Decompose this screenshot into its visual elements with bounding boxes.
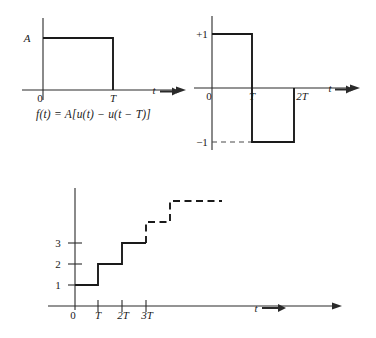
staircase-chart: 1 2 3 0 T 2T 3T t	[40, 180, 376, 320]
square-wave-chart: +1 −1 0 T 2T t	[190, 0, 376, 152]
figure-square-wave: +1 −1 0 T 2T t f(t) = u(t) − 2u(t − T) +…	[190, 0, 376, 180]
x-axis-label-t: t	[254, 302, 258, 314]
x-label-T: T	[249, 90, 256, 102]
x-label-2T: 2T	[117, 309, 130, 321]
y-label-2: 2	[55, 258, 61, 270]
staircase-dashed-curve	[146, 201, 222, 243]
caption-rectangular-pulse: f(t) = A[u(t) − u(t − T)]	[36, 108, 151, 120]
pulse-curve	[43, 38, 113, 90]
staircase-solid-curve	[75, 243, 146, 285]
origin-label: 0	[206, 90, 212, 102]
x-label-3T: 3T	[140, 309, 154, 321]
x-label-T: T	[110, 92, 117, 104]
y-label-3: 3	[55, 237, 61, 249]
figure-rectangular-pulse: A 0 T t f(t) = A[u(t) − u(t − T)]	[0, 0, 200, 140]
y-label-1: 1	[55, 279, 61, 291]
t-label-arrow-icon	[262, 304, 286, 312]
y-label-minus-one: −1	[196, 136, 208, 148]
figure-staircase: 1 2 3 0 T 2T 3T t f(t) = u(t) + u(t − T)…	[40, 180, 376, 338]
rectangular-pulse-chart: A 0 T t	[0, 0, 200, 108]
x-axis-arrow-icon	[332, 303, 342, 310]
origin-label: 0	[37, 92, 43, 104]
x-label-2T: 2T	[296, 90, 309, 102]
y-label-A: A	[23, 32, 31, 44]
origin-label: 0	[70, 309, 76, 321]
y-label-plus-one: +1	[196, 28, 208, 40]
x-label-T: T	[95, 309, 102, 321]
